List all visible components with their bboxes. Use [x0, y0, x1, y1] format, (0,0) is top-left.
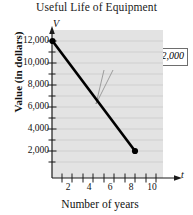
chart-figure: Useful Life of Equipment Value (in dolla… — [0, 0, 193, 215]
plot-canvas — [0, 0, 193, 215]
data-point-end — [132, 148, 138, 154]
data-point-start — [49, 38, 55, 44]
